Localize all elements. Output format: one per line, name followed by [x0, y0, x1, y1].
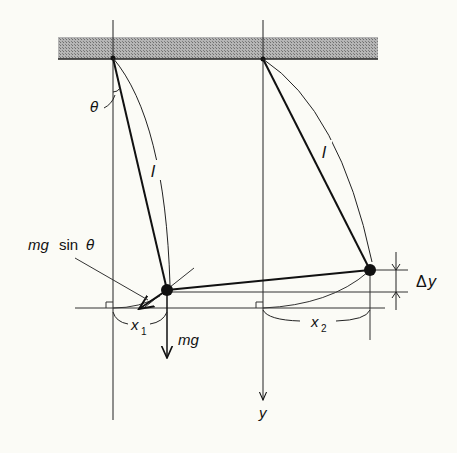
right-bob [364, 264, 376, 276]
x2-label: x 2 [310, 313, 327, 334]
mg-sin-theta-leader [75, 258, 148, 300]
svg-text:sin: sin [59, 236, 78, 253]
svg-text:x: x [130, 316, 139, 333]
left-bob [161, 284, 173, 296]
delta-y-label: Δ y [416, 273, 437, 290]
left-swing-arc [113, 296, 160, 308]
svg-text:y: y [427, 273, 437, 290]
svg-text:θ: θ [86, 237, 95, 253]
svg-text:Δ: Δ [416, 273, 427, 290]
svg-text:x: x [310, 313, 319, 330]
connecting-string [167, 270, 370, 290]
x1-brace [113, 312, 167, 324]
ceiling [58, 37, 378, 59]
theta-arc [113, 88, 120, 92]
svg-text:2: 2 [321, 323, 327, 334]
svg-text:1: 1 [141, 326, 147, 337]
theta-label: θ [90, 99, 99, 115]
right-right-angle-mark [256, 302, 263, 308]
pendulum-diagram: θ l l mg sin θ mg x 1 x 2 Δ y y [0, 0, 457, 453]
x1-label: x 1 [130, 316, 147, 337]
mg-label: mg [178, 331, 199, 348]
left-right-angle-mark [106, 302, 113, 308]
delta-y-dimension [392, 252, 400, 310]
svg-text:mg: mg [28, 236, 49, 253]
right-swing-arc [263, 272, 368, 308]
right-pendulum-string [263, 59, 370, 270]
mg-sin-theta-label: mg sin θ [28, 236, 95, 253]
y-axis-label: y [258, 404, 268, 421]
